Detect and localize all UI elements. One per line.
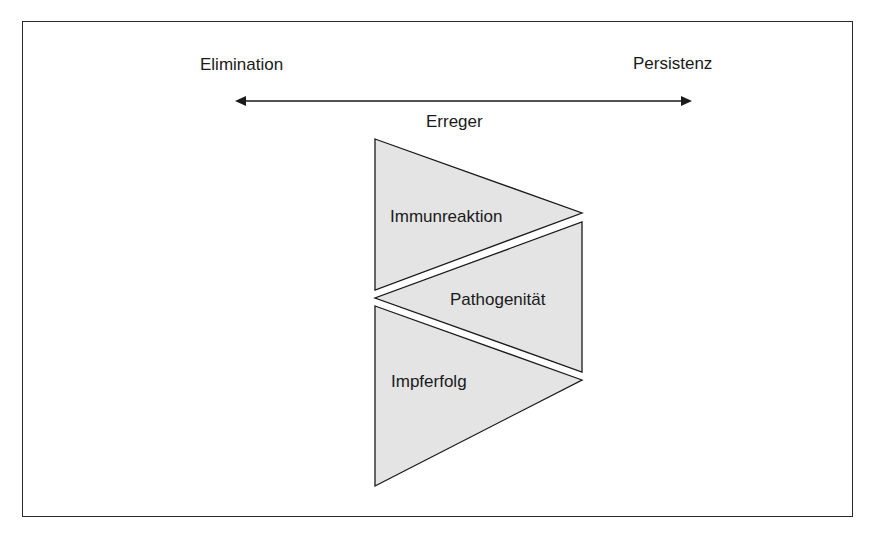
diagram-canvas (0, 0, 869, 534)
double-arrow-icon (235, 96, 692, 106)
pathogenitaet-label: Pathogenität (450, 291, 545, 308)
persistenz-label: Persistenz (633, 55, 712, 72)
immunreaktion-label: Immunreaktion (390, 208, 502, 225)
erreger-label: Erreger (426, 113, 483, 130)
elimination-label: Elimination (200, 56, 283, 73)
impferfolg-label: Impferfolg (391, 373, 467, 390)
